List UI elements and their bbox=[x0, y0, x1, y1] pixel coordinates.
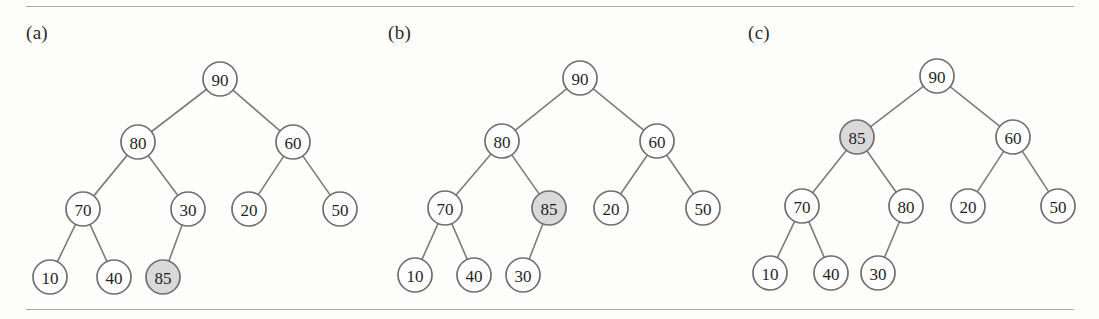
node-circle bbox=[276, 125, 310, 159]
tree-edge bbox=[451, 223, 467, 261]
node-circle bbox=[428, 191, 462, 225]
node-circle bbox=[563, 61, 597, 95]
node-circle bbox=[861, 256, 895, 290]
panel-label-c: (c) bbox=[748, 22, 770, 44]
tree-edge bbox=[151, 89, 208, 133]
tree-node[interactable]: 50 bbox=[1041, 189, 1075, 223]
tree-node[interactable]: 85 bbox=[840, 120, 874, 154]
node-circle bbox=[814, 256, 848, 290]
node-value-label: 30 bbox=[515, 267, 532, 286]
tree-edge bbox=[884, 221, 900, 258]
tree-edge bbox=[232, 89, 281, 131]
tree-edge bbox=[666, 154, 694, 195]
node-circle bbox=[951, 189, 985, 223]
tree-edge bbox=[511, 154, 540, 195]
tree-node[interactable]: 70 bbox=[785, 189, 819, 223]
node-circle-highlighted bbox=[840, 120, 874, 154]
node-value-label: 70 bbox=[437, 200, 454, 219]
tree-node[interactable]: 90 bbox=[563, 61, 597, 95]
figure-container: 9080607030205010408590806070852050104030… bbox=[0, 0, 1099, 319]
node-value-label: 20 bbox=[960, 198, 977, 217]
tree-node[interactable]: 90 bbox=[203, 62, 237, 96]
node-circle bbox=[640, 124, 674, 158]
bottom-rule bbox=[26, 309, 1074, 310]
tree-edge bbox=[422, 223, 439, 261]
tree-node[interactable]: 85 bbox=[146, 260, 180, 294]
tree-node[interactable]: 30 bbox=[171, 192, 205, 226]
tree-node[interactable]: 90 bbox=[920, 59, 954, 93]
tree-node[interactable]: 50 bbox=[323, 192, 357, 226]
node-circle bbox=[66, 192, 100, 226]
node-value-label: 90 bbox=[572, 70, 589, 89]
node-value-label: 60 bbox=[1005, 129, 1022, 148]
node-circle bbox=[121, 125, 155, 159]
tree-node[interactable]: 40 bbox=[457, 258, 491, 292]
tree-node[interactable]: 70 bbox=[428, 191, 462, 225]
tree-node[interactable]: 70 bbox=[66, 192, 100, 226]
top-rule bbox=[26, 6, 1074, 7]
tree-node[interactable]: 20 bbox=[951, 189, 985, 223]
tree-edge bbox=[977, 150, 1005, 192]
node-value-label: 20 bbox=[603, 200, 620, 219]
node-circle bbox=[506, 258, 540, 292]
panel-label-b: (b) bbox=[388, 22, 411, 44]
tree-node[interactable]: 50 bbox=[686, 191, 720, 225]
tree-node[interactable]: 40 bbox=[814, 256, 848, 290]
tree-node[interactable]: 85 bbox=[532, 191, 566, 225]
tree-node[interactable]: 60 bbox=[996, 120, 1030, 154]
node-circle bbox=[996, 120, 1030, 154]
tree-node[interactable]: 20 bbox=[232, 192, 266, 226]
tree-edge bbox=[455, 153, 491, 196]
tree-node[interactable]: 10 bbox=[33, 260, 67, 294]
tree-edge bbox=[949, 86, 1000, 127]
node-circle bbox=[889, 189, 923, 223]
node-circle bbox=[785, 189, 819, 223]
tree-node[interactable]: 40 bbox=[97, 260, 131, 294]
node-value-label: 80 bbox=[898, 198, 915, 217]
node-circle bbox=[1041, 189, 1075, 223]
tree-edge bbox=[870, 86, 925, 128]
tree-node[interactable]: 30 bbox=[506, 258, 540, 292]
tree-edge bbox=[169, 224, 183, 262]
node-circle bbox=[753, 256, 787, 290]
node-value-label: 80 bbox=[494, 133, 511, 152]
node-value-label: 40 bbox=[823, 265, 840, 284]
node-value-label: 30 bbox=[870, 265, 887, 284]
tree-node[interactable]: 80 bbox=[121, 125, 155, 159]
tree-node[interactable]: 60 bbox=[276, 125, 310, 159]
tree-edge bbox=[93, 154, 128, 196]
node-circle bbox=[686, 191, 720, 225]
tree-node[interactable]: 60 bbox=[640, 124, 674, 158]
tree-edge bbox=[620, 154, 648, 195]
tree-node[interactable]: 10 bbox=[753, 256, 787, 290]
node-value-label: 40 bbox=[466, 267, 483, 286]
node-value-label: 50 bbox=[332, 201, 349, 220]
node-group-panel-a: 90806070302050104085 bbox=[33, 62, 357, 294]
tree-edge bbox=[1022, 150, 1050, 192]
node-circle bbox=[97, 260, 131, 294]
node-value-label: 30 bbox=[180, 201, 197, 220]
tree-diagram-canvas: 9080607030205010408590806070852050104030… bbox=[0, 0, 1099, 319]
node-value-label: 85 bbox=[849, 129, 866, 148]
tree-node[interactable]: 80 bbox=[485, 124, 519, 158]
tree-edge bbox=[812, 150, 847, 194]
edge-group-panel-c bbox=[777, 86, 1049, 259]
node-circle bbox=[203, 62, 237, 96]
tree-edge bbox=[302, 155, 331, 196]
tree-edge bbox=[514, 88, 567, 131]
edge-group-panel-b bbox=[422, 88, 694, 260]
node-value-label: 60 bbox=[649, 133, 666, 152]
tree-edge bbox=[258, 155, 284, 195]
node-group-panel-b: 90806070852050104030 bbox=[398, 61, 720, 292]
tree-node[interactable]: 80 bbox=[889, 189, 923, 223]
tree-edge bbox=[592, 88, 644, 131]
node-value-label: 40 bbox=[106, 269, 123, 288]
tree-node[interactable]: 30 bbox=[861, 256, 895, 290]
node-value-label: 10 bbox=[762, 265, 779, 284]
tree-node[interactable]: 10 bbox=[398, 258, 432, 292]
node-circle bbox=[457, 258, 491, 292]
node-circle bbox=[33, 260, 67, 294]
panel-label-a: (a) bbox=[26, 22, 48, 44]
tree-edge bbox=[866, 150, 896, 193]
tree-node[interactable]: 20 bbox=[594, 191, 628, 225]
